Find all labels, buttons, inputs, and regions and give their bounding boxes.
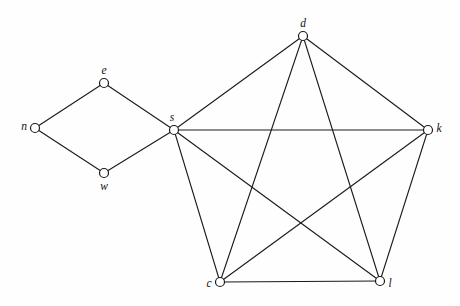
graph-node-c[interactable]: c xyxy=(206,277,224,289)
graph-edge-k-l xyxy=(380,130,428,281)
graph-node-label-n: n xyxy=(21,120,27,132)
graph-edge-n-w xyxy=(35,128,104,173)
graph-node-w[interactable]: w xyxy=(100,169,109,192)
graph-node-n[interactable]: n xyxy=(21,120,39,133)
graph-node-circle-k[interactable] xyxy=(424,126,433,135)
graph-node-label-c: c xyxy=(206,277,211,289)
graph-edge-d-c xyxy=(220,36,303,282)
graph-node-label-e: e xyxy=(101,64,106,76)
graph-node-label-k: k xyxy=(436,122,442,134)
graph-node-circle-l[interactable] xyxy=(376,277,385,286)
graph-node-d[interactable]: d xyxy=(299,17,308,41)
graph-edge-n-e xyxy=(35,83,104,128)
graph-node-circle-s[interactable] xyxy=(170,126,179,135)
graph-canvas: newsdkcl xyxy=(0,0,460,306)
graph-edge-s-l xyxy=(174,130,380,281)
graph-node-circle-d[interactable] xyxy=(299,32,308,41)
graph-node-e[interactable]: e xyxy=(100,64,109,88)
graph-edge-d-l xyxy=(303,36,380,281)
graph-edge-s-c xyxy=(174,130,220,282)
graph-figure: newsdkcl xyxy=(0,0,460,306)
graph-node-label-s: s xyxy=(170,111,175,123)
graph-node-label-w: w xyxy=(100,180,108,192)
graph-edge-d-k xyxy=(303,36,428,130)
graph-node-label-d: d xyxy=(300,17,306,29)
graph-node-circle-c[interactable] xyxy=(216,278,225,287)
graph-node-circle-e[interactable] xyxy=(100,79,109,88)
graph-node-l[interactable]: l xyxy=(376,277,392,289)
graph-edge-w-s xyxy=(104,130,174,173)
edge-layer xyxy=(35,36,428,282)
graph-edge-s-d xyxy=(174,36,303,130)
graph-node-circle-n[interactable] xyxy=(31,124,40,133)
graph-edge-k-c xyxy=(220,130,428,282)
graph-node-circle-w[interactable] xyxy=(100,169,109,178)
graph-edge-c-l xyxy=(220,281,380,282)
graph-node-s[interactable]: s xyxy=(170,111,179,135)
graph-node-label-l: l xyxy=(388,277,391,289)
graph-node-k[interactable]: k xyxy=(424,122,443,135)
graph-edge-e-s xyxy=(104,83,174,130)
